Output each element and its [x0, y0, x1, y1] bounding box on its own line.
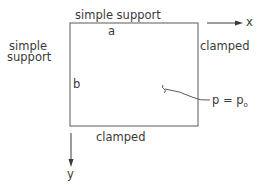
y-axis-label: y — [67, 168, 74, 180]
top-edge-label: simple support — [75, 9, 161, 21]
bottom-edge-label: clamped — [96, 131, 145, 143]
load-label: p = po — [212, 94, 248, 111]
x-axis-label: x — [246, 16, 253, 28]
load-label-subscript: o — [244, 101, 248, 109]
y-axis-arrow — [69, 133, 74, 167]
right-edge-label: clamped — [200, 40, 249, 52]
dimension-b-label: b — [73, 78, 80, 90]
plate-outline — [70, 23, 198, 126]
load-label-text: p = p — [212, 93, 244, 107]
left-edge-label-line2: support — [7, 51, 51, 63]
load-leader-line — [165, 89, 210, 100]
x-axis-arrow — [207, 21, 243, 26]
dimension-a-label: a — [108, 25, 115, 37]
